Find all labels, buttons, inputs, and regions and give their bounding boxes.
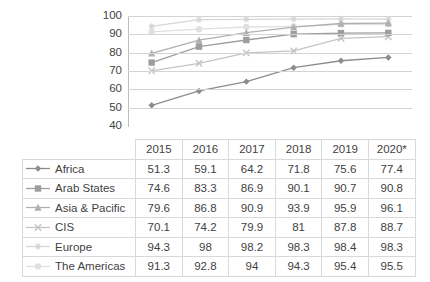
legend-cell: The Americas: [25, 260, 130, 272]
data-point-diamond: [385, 54, 391, 60]
table-cell: 59.1: [182, 159, 229, 179]
legend-marker-x-icon: [25, 222, 51, 233]
table-cell: 92.8: [182, 257, 229, 277]
table-cell: 96.1: [368, 198, 415, 218]
legend-label: CIS: [55, 221, 74, 233]
table-col-header-2018: 2018: [275, 140, 322, 160]
series-europe: [148, 16, 391, 30]
table-cell: 94.3: [275, 257, 322, 277]
table-cell: 86.8: [182, 198, 229, 218]
series-line: [152, 37, 389, 71]
table-row: The Americas91.392.89494.395.495.5: [23, 257, 416, 277]
table-cell: 94: [229, 257, 276, 277]
table-cell: 64.2: [229, 159, 276, 179]
table-col-header-2020star: 2020*: [368, 140, 415, 160]
data-point-star: [148, 23, 154, 29]
y-axis-tick-60: 60: [109, 83, 122, 95]
table-row: CIS70.174.279.98187.888.7: [23, 218, 416, 238]
y-axis-tick-40: 40: [109, 120, 122, 132]
table-cell: 71.8: [275, 159, 322, 179]
legend-row-asia-pacific: Asia & Pacific: [23, 198, 136, 218]
table-cell: 51.3: [136, 159, 183, 179]
table-col-header-2016: 2016: [182, 140, 229, 160]
table-cell: 70.1: [136, 218, 183, 238]
data-point-circle: [196, 26, 202, 32]
series-line: [152, 24, 389, 32]
table-head: 201520162017201820192020*: [23, 140, 416, 160]
y-axis-tick-80: 80: [109, 47, 122, 59]
data-point-square: [35, 185, 41, 191]
data-point-diamond: [290, 65, 296, 71]
legend-marker-circle-icon: [25, 261, 51, 272]
series-cis: [148, 34, 391, 75]
legend-label: Africa: [55, 163, 84, 175]
gridline-90: [128, 34, 412, 35]
table-row: Arab States74.683.386.990.190.790.8: [23, 179, 416, 199]
gridline-50: [128, 108, 412, 109]
table-cell: 79.9: [229, 218, 276, 238]
legend-label: Asia & Pacific: [55, 202, 125, 214]
legend-row-the-americas: The Americas: [23, 257, 136, 277]
legend-marker-star-icon: [25, 241, 51, 252]
series-line: [152, 19, 389, 27]
table-cell: 90.8: [368, 179, 415, 199]
table-corner-cell: [23, 140, 136, 160]
legend-row-arab-states: Arab States: [23, 179, 136, 199]
table-cell: 94.3: [136, 237, 183, 257]
gridline-70: [128, 71, 412, 72]
table-cell: 95.5: [368, 257, 415, 277]
legend-cell: Europe: [25, 241, 130, 253]
y-axis-tick-70: 70: [109, 65, 122, 77]
gridline-80: [128, 53, 412, 54]
legend-label: Europe: [55, 241, 92, 253]
table-cell: 90.7: [322, 179, 369, 199]
data-point-star: [35, 244, 41, 250]
y-axis-tick-90: 90: [109, 28, 122, 40]
table-cell: 79.6: [136, 198, 183, 218]
y-axis: 100908070605040: [0, 0, 126, 143]
legend-row-europe: Europe: [23, 237, 136, 257]
table-row: Africa51.359.164.271.875.677.4: [23, 159, 416, 179]
table-cell: 81: [275, 218, 322, 238]
table-cell: 98.3: [368, 237, 415, 257]
table-col-header-2017: 2017: [229, 140, 276, 160]
data-point-star: [243, 16, 249, 22]
legend-cell: Arab States: [25, 182, 130, 194]
table-cell: 93.9: [275, 198, 322, 218]
table-cell: 86.9: [229, 179, 276, 199]
table-cell: 98: [182, 237, 229, 257]
data-point-square: [196, 43, 202, 49]
table-cell: 83.3: [182, 179, 229, 199]
legend-cell: Asia & Pacific: [25, 202, 130, 214]
table-row: Asia & Pacific79.686.890.993.995.996.1: [23, 198, 416, 218]
data-point-diamond: [243, 78, 249, 84]
legend-marker-square-icon: [25, 183, 51, 194]
table-cell: 74.6: [136, 179, 183, 199]
data-table-wrap: 201520162017201820192020* Africa51.359.1…: [22, 139, 415, 275]
legend-row-africa: Africa: [23, 159, 136, 179]
legend-marker-diamond-icon: [25, 163, 51, 174]
table-col-header-2019: 2019: [322, 140, 369, 160]
data-point-square: [243, 37, 249, 43]
legend-label: Arab States: [55, 182, 115, 194]
table-cell: 87.8: [322, 218, 369, 238]
legend-cell: CIS: [25, 221, 130, 233]
table-cell: 98.3: [275, 237, 322, 257]
table-header-row: 201520162017201820192020*: [23, 140, 416, 160]
table-cell: 95.9: [322, 198, 369, 218]
data-point-square: [148, 59, 154, 65]
y-axis-tick-100: 100: [103, 10, 122, 22]
data-point-star: [196, 16, 202, 22]
chart-page: 100908070605040 201520162017201820192020…: [0, 0, 430, 282]
gridline-60: [128, 89, 412, 90]
table-cell: 90.1: [275, 179, 322, 199]
table-cell: 95.4: [322, 257, 369, 277]
data-point-diamond: [35, 166, 41, 172]
legend-label: The Americas: [55, 260, 125, 272]
table-cell: 75.6: [322, 159, 369, 179]
plot-inner: [128, 16, 412, 126]
table-cell: 74.2: [182, 218, 229, 238]
series-africa: [148, 54, 391, 108]
table-cell: 98.2: [229, 237, 276, 257]
data-point-circle: [35, 263, 41, 269]
